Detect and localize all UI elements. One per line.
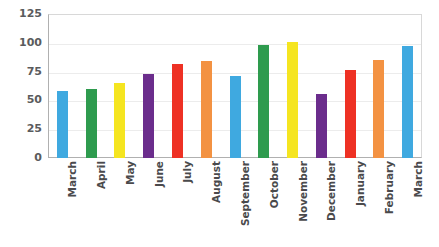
y-tick-label: 0 <box>0 153 42 163</box>
bar-chart: 0255075100125 MarchAprilMayJuneJulyAugus… <box>0 0 439 247</box>
x-tick-label: November <box>298 161 309 247</box>
y-tick-label: 75 <box>0 67 42 77</box>
bars-layer <box>48 14 422 158</box>
y-tick-label: 125 <box>0 9 42 19</box>
bar <box>86 89 97 158</box>
bar <box>345 70 356 158</box>
bar <box>114 83 125 158</box>
x-tick-label: February <box>384 161 395 247</box>
x-tick-label: April <box>96 161 107 247</box>
bar <box>258 45 269 158</box>
bar <box>172 64 183 158</box>
x-axis: MarchAprilMayJuneJulyAugustSeptemberOcto… <box>48 161 422 247</box>
bar <box>316 94 327 159</box>
x-tick-label: May <box>125 161 136 247</box>
x-tick-label: July <box>182 161 193 247</box>
y-tick-label: 100 <box>0 38 42 48</box>
x-tick-label: June <box>154 161 165 247</box>
y-tick-label: 25 <box>0 124 42 134</box>
bar <box>230 76 241 158</box>
bar <box>143 74 154 158</box>
x-tick-label: December <box>326 161 337 247</box>
bar <box>287 42 298 158</box>
bar <box>373 60 384 158</box>
bar <box>201 61 212 158</box>
bar <box>402 46 413 158</box>
x-tick-label: January <box>355 161 366 247</box>
x-tick-label: March <box>413 161 424 247</box>
x-tick-label: September <box>240 161 251 247</box>
x-tick-label: August <box>211 161 222 247</box>
bar <box>57 91 68 158</box>
x-tick-label: March <box>67 161 78 247</box>
y-tick-label: 50 <box>0 95 42 105</box>
x-tick-label: October <box>269 161 280 247</box>
